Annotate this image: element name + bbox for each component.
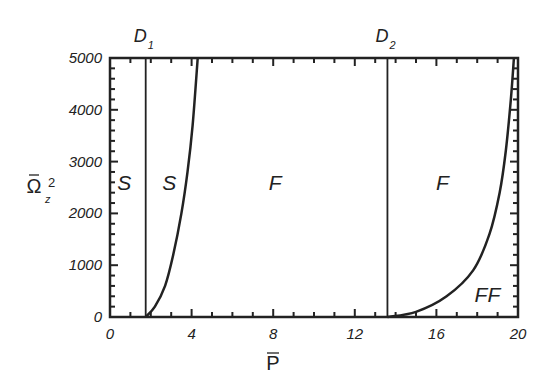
svg-text:2: 2 [388, 39, 395, 51]
y-tick-label: 4000 [69, 101, 103, 118]
svg-text:2: 2 [48, 175, 55, 190]
x-tick-label: 12 [346, 325, 363, 342]
x-axis-label: P [266, 352, 279, 374]
y-tick-label: 0 [94, 308, 103, 325]
x-tick-label: 8 [269, 325, 278, 342]
y-tick-label: 2000 [68, 204, 103, 221]
svg-text:z: z [44, 193, 51, 205]
x-tick-label: 0 [106, 325, 115, 342]
d1-label: D [134, 26, 147, 46]
data-curves [146, 58, 514, 317]
region-label-f: F [269, 171, 283, 194]
labels: 048121620010002000300040005000D1D2SSFFFF… [27, 26, 527, 374]
region-label-f: F [436, 171, 450, 194]
stability-chart: 048121620010002000300040005000D1D2SSFFFF… [0, 0, 554, 388]
y-tick-label: 3000 [69, 153, 103, 170]
y-tick-label: 5000 [69, 49, 103, 66]
svg-text:1: 1 [148, 39, 154, 51]
y-axis-label: Ω [27, 175, 42, 197]
region-label-ff: FF [475, 283, 502, 306]
x-tick-label: 16 [428, 325, 445, 342]
x-tick-label: 4 [187, 325, 195, 342]
y-tick-label: 1000 [69, 256, 103, 273]
region-label-s: S [162, 171, 176, 194]
region-label-s: S [117, 171, 131, 194]
x-tick-label: 20 [509, 325, 527, 342]
d2-label: D [375, 26, 388, 46]
f-ff-boundary-curve [387, 58, 513, 317]
